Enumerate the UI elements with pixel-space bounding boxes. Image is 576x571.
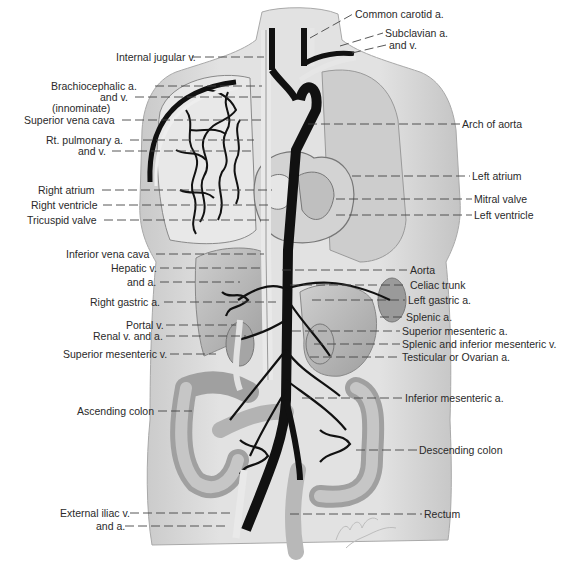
label-descending-colon: Descending colon bbox=[419, 444, 502, 456]
label-right-gastric-a: Right gastric a. bbox=[90, 296, 160, 308]
label-internal-jugular-v: Internal jugular v. bbox=[116, 51, 196, 63]
label-innominate: (innominate) bbox=[52, 102, 110, 114]
label-left-gastric-a: Left gastric a. bbox=[408, 294, 471, 306]
label-renal-v-and-a: Renal v. and a. bbox=[93, 330, 163, 342]
label-aorta: Aorta bbox=[410, 264, 435, 276]
label-superior-vena-cava: Superior vena cava bbox=[24, 114, 114, 126]
label-inferior-mesenteric-a: Inferior mesenteric a. bbox=[405, 392, 504, 404]
label-splenic-a: Splenic a. bbox=[406, 311, 452, 323]
label-testicular-ovarian-a: Testicular or Ovarian a. bbox=[402, 351, 510, 363]
label-ascending-colon: Ascending colon bbox=[77, 405, 154, 417]
label-celiac-trunk: Celiac trunk bbox=[410, 279, 465, 291]
label-rectum: Rectum bbox=[424, 508, 460, 520]
label-splenic-inferior-mesenteric-v: Splenic and inferior mesenteric v. bbox=[402, 338, 556, 350]
label-mitral-valve: Mitral valve bbox=[474, 193, 527, 205]
anatomy-figure: Internal jugular v. Brachiocephalic a. a… bbox=[0, 0, 576, 571]
label-rt-pulmonary-and-v: and v. bbox=[78, 145, 106, 157]
label-left-atrium: Left atrium bbox=[472, 170, 522, 182]
label-external-iliac-v: External iliac v. bbox=[60, 507, 130, 519]
label-superior-mesenteric-a: Superior mesenteric a. bbox=[402, 325, 508, 337]
label-hepatic-v: Hepatic v. bbox=[111, 262, 157, 274]
label-left-ventricle: Left ventricle bbox=[474, 209, 534, 221]
label-hepatic-and-a: and a. bbox=[127, 276, 156, 288]
label-subclavian-and-v: and v. bbox=[389, 39, 417, 51]
label-inferior-vena-cava: Inferior vena cava bbox=[66, 248, 149, 260]
label-right-ventricle: Right ventricle bbox=[31, 199, 98, 211]
label-arch-of-aorta: Arch of aorta bbox=[462, 118, 522, 130]
label-external-iliac-and-a: and a. bbox=[96, 520, 125, 532]
label-subclavian-a: Subclavian a. bbox=[385, 27, 448, 39]
label-right-atrium: Right atrium bbox=[38, 184, 95, 196]
label-superior-mesenteric-v: Superior mesenteric v. bbox=[63, 348, 167, 360]
rectum bbox=[293, 470, 298, 552]
label-common-carotid-a: Common carotid a. bbox=[355, 8, 444, 20]
label-tricuspid-valve: Tricuspid valve bbox=[27, 214, 97, 226]
